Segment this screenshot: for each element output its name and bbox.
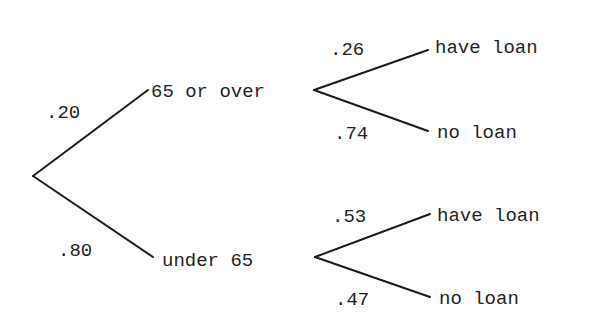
edge-root-to-under-65 <box>33 176 153 257</box>
probability-under-65-no-loan: .47 <box>335 289 369 311</box>
probability-65-or-over: .20 <box>46 102 80 124</box>
probability-65-or-over-have-loan: .26 <box>330 39 364 61</box>
edge-65-or-over-to-no-loan <box>314 90 428 131</box>
leaf-under-65-no-loan: no loan <box>439 288 519 310</box>
leaf-65-or-over-no-loan: no loan <box>437 122 517 144</box>
probability-under-65: .80 <box>58 240 92 262</box>
leaf-under-65-have-loan: have loan <box>437 205 540 227</box>
edge-under-65-to-no-loan <box>315 257 430 297</box>
node-65-or-over: 65 or over <box>151 81 265 103</box>
probability-under-65-have-loan: .53 <box>332 206 366 228</box>
node-under-65: under 65 <box>162 250 253 272</box>
leaf-65-or-over-have-loan: have loan <box>435 37 538 59</box>
probability-65-or-over-no-loan: .74 <box>334 123 368 145</box>
probability-tree-diagram: .20 .80 65 or over under 65 .26 .74 have… <box>0 0 609 332</box>
